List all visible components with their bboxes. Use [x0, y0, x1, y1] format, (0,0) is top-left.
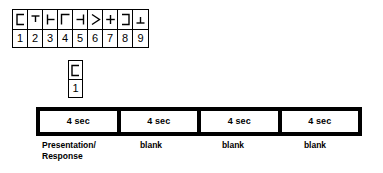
digit-label: 9: [137, 33, 143, 44]
bracket-open-right-symbol: [70, 64, 81, 77]
probe-digit: 1: [69, 80, 82, 97]
digit-cell-3: 3: [43, 30, 58, 47]
digit-row: 1 2 3 4 5 6 7 8 9: [13, 30, 148, 47]
timeline-segment: 4 sec: [201, 111, 278, 132]
digit-label: 7: [107, 33, 113, 44]
digit-label: 4: [62, 33, 68, 44]
timeline-captions: Presentation/ Response blank blank blank: [36, 140, 362, 168]
symbol-cell-9: [133, 10, 148, 29]
digit-cell-1: 1: [13, 30, 28, 47]
digit-label: 6: [92, 33, 98, 44]
turnstile-right-symbol: [45, 13, 56, 26]
digit-cell-2: 2: [28, 30, 43, 47]
greater-than-symbol: [90, 13, 101, 26]
digit-label: 1: [17, 33, 23, 44]
digit-cell-5: 5: [73, 30, 88, 47]
timeline-segment: 4 sec: [121, 111, 198, 132]
digit-cell-7: 7: [103, 30, 118, 47]
symbol-cell-5: [73, 10, 88, 29]
probe-digit-label: 1: [72, 83, 78, 94]
turnstile-left-symbol: [75, 13, 86, 26]
trial-timeline: 4 sec 4 sec 4 sec 4 sec: [36, 107, 362, 136]
digit-label: 2: [32, 33, 38, 44]
caption-line-1: Presentation/: [42, 140, 112, 151]
segment-duration-label: 4 sec: [67, 117, 90, 126]
symbol-cell-3: [43, 10, 58, 29]
segment-duration-label: 4 sec: [228, 117, 251, 126]
tee-down-symbol: [30, 13, 41, 26]
segment-caption-blank: blank: [116, 140, 194, 168]
symbol-cell-6: [88, 10, 103, 29]
digit-label: 5: [77, 33, 83, 44]
digit-label: 8: [122, 33, 128, 44]
symbol-cell-2: [28, 10, 43, 29]
segment-caption-presentation-response: Presentation/ Response: [40, 140, 112, 168]
gamma-corner-symbol: [60, 13, 71, 26]
digit-cell-9: 9: [133, 30, 148, 47]
digit-cell-8: 8: [118, 30, 133, 47]
digit-cell-4: 4: [58, 30, 73, 47]
segment-duration-label: 4 sec: [308, 117, 331, 126]
probe-symbol-cell: 1: [68, 60, 83, 98]
up-tack-symbol: [135, 13, 146, 26]
symbol-digit-code-key: 1 2 3 4 5 6 7 8 9: [12, 9, 149, 48]
probe-symbol: [69, 61, 82, 80]
symbol-row: [13, 10, 148, 30]
plus-symbol: [105, 13, 116, 26]
timeline-segment: 4 sec: [282, 111, 359, 132]
segment-caption-blank: blank: [198, 140, 276, 168]
digit-label: 3: [47, 33, 53, 44]
timeline-segment: 4 sec: [40, 111, 117, 132]
symbol-cell-8: [118, 10, 133, 29]
digit-cell-6: 6: [88, 30, 103, 47]
segment-duration-label: 4 sec: [147, 117, 170, 126]
symbol-cell-1: [13, 10, 28, 29]
bracket-open-right-symbol: [15, 13, 26, 26]
symbol-cell-4: [58, 10, 73, 29]
symbol-cell-7: [103, 10, 118, 29]
segment-caption-blank: blank: [280, 140, 358, 168]
bracket-open-left-symbol: [120, 13, 131, 26]
caption-line-2: Response: [42, 151, 112, 162]
